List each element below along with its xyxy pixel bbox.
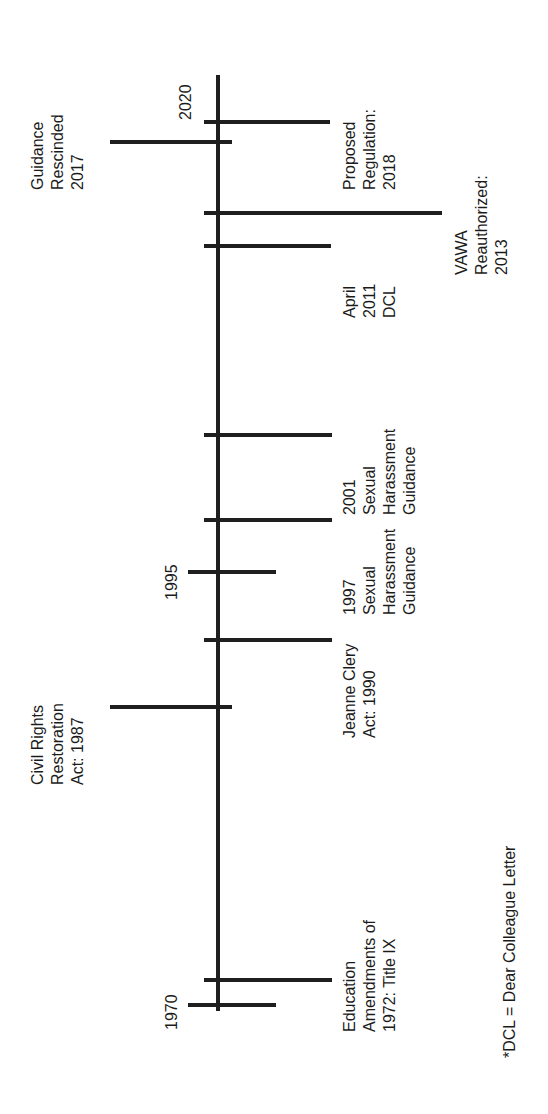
label-line: Sexual [360,529,380,615]
label-line: Amendments of [360,920,380,1032]
decade-label-1995: 1995 [162,564,181,600]
label-line: Guidance [400,529,420,615]
label-line: Regulation: [360,109,380,190]
label-line: Act: 1987 [68,703,88,785]
label-line: April [340,284,360,318]
label-line: VAWA [452,175,472,275]
label-guidance-rescinded-2017: Guidance Rescinded 2017 [28,114,88,190]
label-line: Education [340,920,360,1032]
label-civil-rights-restoration-act-1987: Civil Rights Restoration Act: 1987 [28,703,88,785]
label-line: 2001 [340,429,360,515]
label-education-amendments-1972: Education Amendments of 1972: Title IX [340,920,400,1032]
tick-2017 [110,140,232,144]
timeline-axis [216,75,220,1011]
tick-2013-vawa [204,211,442,215]
label-sexual-harassment-guidance-1997: 1997 Sexual Harassment Guidance [340,529,420,615]
tick-2018 [204,120,330,124]
label-jeanne-clery-act-1990: Jeanne Clery Act: 1990 [340,644,380,738]
label-line: 2013 [492,175,512,275]
label-line: DCL [380,284,400,318]
footnote-dcl: *DCL = Dear Colleague Letter [500,846,519,1058]
label-line: Restoration [48,703,68,785]
label-line: 2017 [68,114,88,190]
label-line: Civil Rights [28,703,48,785]
label-line: Sexual [360,429,380,515]
label-april-2011-dcl: April 2011 DCL [340,284,400,318]
label-line: 2018 [380,109,400,190]
label-line: 2011 [360,284,380,318]
label-line: 1972: Title IX [380,920,400,1032]
decade-label-1970: 1970 [162,994,181,1030]
decade-label-2020: 2020 [176,84,195,120]
label-line: Harassment [380,429,400,515]
tick-1987 [110,705,232,709]
label-line: Jeanne Clery [340,644,360,738]
label-sexual-harassment-guidance-2001: 2001 Sexual Harassment Guidance [340,429,420,515]
tick-1995 [188,570,276,574]
tick-1990-clery [204,638,332,642]
label-line: Guidance [28,114,48,190]
label-line: Rescinded [48,114,68,190]
label-line: Proposed [340,109,360,190]
label-line: Reauthorized: [472,175,492,275]
tick-1972-title-ix [204,978,332,982]
label-line: Harassment [380,529,400,615]
tick-1970 [188,1003,276,1007]
label-line: Act: 1990 [360,644,380,738]
label-vawa-reauthorized-2013: VAWA Reauthorized: 2013 [452,175,512,275]
label-proposed-regulation-2018: Proposed Regulation: 2018 [340,109,400,190]
tick-2001 [204,433,332,437]
tick-2011-dcl [204,244,331,248]
label-line: Guidance [400,429,420,515]
label-line: 1997 [340,529,360,615]
tick-1997 [204,518,332,522]
timeline-figure: 2020 1995 1970 Guidance Rescinded 2017 C… [0,0,548,1114]
